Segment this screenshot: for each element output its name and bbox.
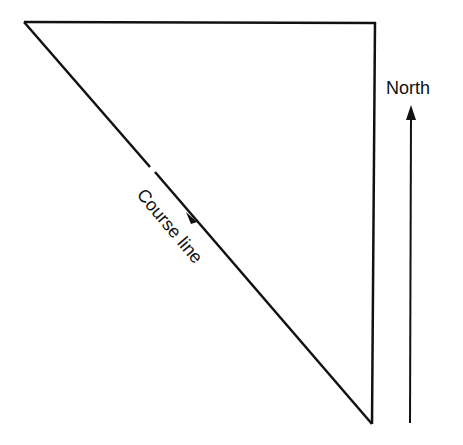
- north-arrow-shaft: [410, 115, 411, 423]
- right-edge: [372, 22, 375, 424]
- north-label: North: [386, 78, 430, 98]
- course-line-label: Course line: [133, 185, 207, 268]
- north-arrow-icon: [406, 105, 416, 120]
- course-line-lower: [155, 172, 372, 424]
- course-line-upper: [24, 22, 150, 167]
- top-edge: [24, 22, 376, 23]
- course-triangle-diagram: North Course line: [0, 0, 463, 445]
